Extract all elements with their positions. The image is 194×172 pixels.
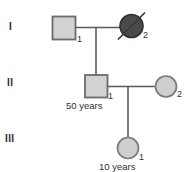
individual-II-1-age: 50 years bbox=[66, 101, 102, 111]
generation-label-3: III bbox=[5, 134, 15, 144]
individual-III-1-circle[interactable] bbox=[118, 138, 139, 159]
individual-II-2-circle[interactable] bbox=[156, 76, 177, 97]
generation-label-1: I bbox=[9, 22, 12, 32]
pedigree-canvas bbox=[0, 0, 194, 172]
individual-III-1-id: 1 bbox=[139, 153, 144, 162]
individual-II-2-id: 2 bbox=[177, 90, 182, 99]
individual-III-1-age: 10 years bbox=[99, 162, 135, 172]
individual-II-1-square[interactable] bbox=[85, 75, 108, 98]
individual-I-2-id: 2 bbox=[143, 31, 148, 40]
pedigree-diagram: I II III 1 2 1 2 1 50 years 10 years bbox=[0, 0, 194, 172]
individual-I-1-square[interactable] bbox=[53, 17, 76, 40]
generation-label-2: II bbox=[7, 78, 13, 88]
individual-II-1-id: 1 bbox=[108, 92, 113, 101]
individual-I-1-id: 1 bbox=[77, 35, 82, 44]
